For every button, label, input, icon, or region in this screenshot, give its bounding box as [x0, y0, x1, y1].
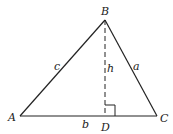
side-label-b: b	[82, 118, 89, 131]
altitude-label-h: h	[107, 62, 114, 75]
vertex-label-c: C	[160, 112, 169, 125]
vertex-label-d: D	[100, 121, 110, 134]
triangle-diagram: B A C D c a b h	[0, 0, 173, 134]
vertex-label-b: B	[100, 5, 109, 18]
vertex-label-a: A	[7, 111, 16, 124]
side-c	[20, 20, 105, 116]
side-label-c: c	[54, 60, 60, 73]
right-angle-marker	[105, 105, 115, 116]
side-label-a: a	[133, 60, 140, 73]
